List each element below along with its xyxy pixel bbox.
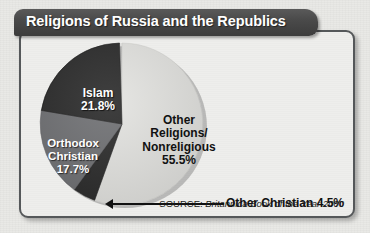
- page-title: Religions of Russia and the Republics: [26, 13, 286, 29]
- slice-label-islam-value: 21.8%: [59, 100, 137, 113]
- slice-label-other-religions: Other Religions/ Nonreligious 55.5%: [124, 114, 234, 168]
- chart-panel: Islam 21.8% Orthodox Christian 17.7% Oth…: [19, 30, 355, 218]
- slice-label-orthodox-line1: Orthodox: [47, 137, 99, 149]
- slice-label-other-religions-line3: Nonreligious: [142, 140, 215, 154]
- title-tab: Religions of Russia and the Republics: [14, 9, 318, 36]
- source-reference: Britannica Book of the Year 2000: [205, 198, 344, 209]
- infographic-figure: Religions of Russia and the Republics: [0, 0, 370, 233]
- source-note: SOURCE: Britannica Book of the Year 2000: [159, 198, 344, 209]
- slice-label-orthodox-line2: Christian: [48, 150, 98, 162]
- slice-label-other-religions-line2: Religions/: [150, 126, 207, 140]
- slice-label-other-religions-line1: Other: [163, 113, 195, 127]
- slice-label-islam-name: Islam: [83, 86, 114, 100]
- slice-label-islam: Islam 21.8%: [59, 87, 137, 114]
- slice-label-orthodox-value: 17.7%: [27, 163, 119, 176]
- source-prefix: SOURCE:: [159, 198, 202, 209]
- slice-label-other-religions-value: 55.5%: [124, 154, 234, 167]
- chart-panel-inner: Islam 21.8% Orthodox Christian 17.7% Oth…: [21, 32, 353, 216]
- slice-label-orthodox-christian: Orthodox Christian 17.7%: [27, 137, 119, 176]
